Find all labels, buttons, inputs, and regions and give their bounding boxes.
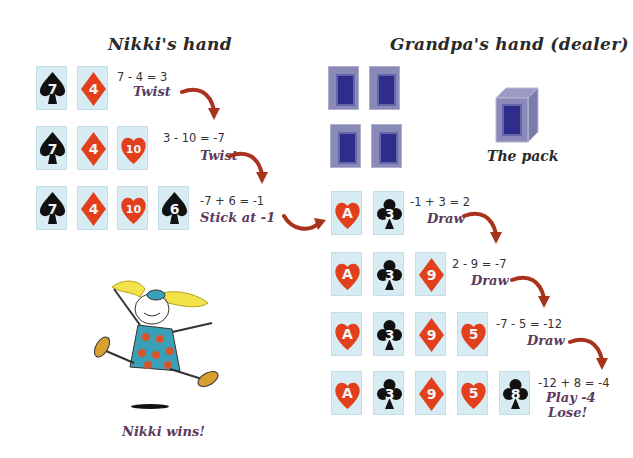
- nikki-action-1: Twist: [133, 84, 171, 99]
- grandpa-hand-title: Grandpa's hand (dealer): [390, 34, 629, 54]
- arrow-icon: [180, 84, 225, 124]
- spade-icon: 7: [37, 187, 68, 231]
- playing-card-4-of-diamonds: 4: [77, 66, 108, 110]
- face-down-card: [371, 124, 402, 168]
- playing-card-9-of-diamonds: 9: [415, 371, 446, 415]
- playing-card-9-of-diamonds: 9: [415, 312, 446, 356]
- playing-card-a-of-hearts: A: [331, 371, 362, 415]
- diamond-icon: 9: [416, 253, 447, 297]
- playing-card-10-of-hearts: 10: [117, 126, 148, 170]
- pack-label: The pack: [487, 148, 558, 164]
- spade-icon: 7: [37, 67, 68, 111]
- nikki-calc-3: -7 + 6 = -1: [200, 194, 264, 208]
- nikki-calc-2: 3 - 10 = -7: [163, 131, 225, 145]
- arrow-icon: [568, 334, 613, 374]
- grandpa-calc-4: -12 + 8 = -4: [538, 376, 609, 390]
- svg-text:9: 9: [427, 386, 437, 402]
- playing-card-5-of-hearts: 5: [457, 371, 488, 415]
- playing-card-a-of-hearts: A: [331, 191, 362, 235]
- svg-text:8: 8: [511, 386, 521, 402]
- diamond-icon: 9: [416, 372, 447, 416]
- svg-text:6: 6: [170, 201, 180, 217]
- svg-text:7: 7: [48, 201, 58, 217]
- face-down-card: [369, 66, 400, 110]
- club-icon: 3: [374, 313, 405, 357]
- arrow-icon: [510, 272, 555, 312]
- diamond-icon: 4: [78, 67, 109, 111]
- playing-card-5-of-hearts: 5: [457, 312, 488, 356]
- playing-card-3-of-clubs: 3: [373, 191, 404, 235]
- playing-card-a-of-hearts: A: [331, 312, 362, 356]
- playing-card-4-of-diamonds: 4: [77, 186, 108, 230]
- svg-text:10: 10: [126, 203, 142, 216]
- grandpa-calc-2: 2 - 9 = -7: [452, 257, 507, 271]
- playing-card-3-of-clubs: 3: [373, 252, 404, 296]
- diamond-icon: 9: [416, 313, 447, 357]
- svg-text:7: 7: [48, 141, 58, 157]
- heart-icon: A: [332, 253, 363, 297]
- card-pack-icon: [488, 86, 540, 148]
- playing-card-8-of-clubs: 8: [499, 371, 530, 415]
- svg-text:A: A: [342, 205, 353, 221]
- playing-card-9-of-diamonds: 9: [415, 252, 446, 296]
- playing-card-7-of-spades: 7: [36, 66, 67, 110]
- heart-icon: A: [332, 372, 363, 416]
- nikki-calc-1: 7 - 4 = 3: [117, 70, 167, 84]
- playing-card-10-of-hearts: 10: [117, 186, 148, 230]
- grandpa-result: Lose!: [548, 405, 587, 420]
- playing-card-3-of-clubs: 3: [373, 371, 404, 415]
- svg-text:3: 3: [385, 386, 395, 402]
- shadow: [131, 404, 169, 409]
- svg-text:4: 4: [88, 81, 98, 97]
- grandpa-calc-3: -7 - 5 = -12: [496, 317, 562, 331]
- svg-text:4: 4: [88, 201, 98, 217]
- heart-icon: 5: [458, 372, 489, 416]
- playing-card-a-of-hearts: A: [331, 252, 362, 296]
- svg-text:A: A: [342, 266, 353, 282]
- svg-text:3: 3: [385, 327, 395, 343]
- diamond-icon: 4: [78, 127, 109, 171]
- svg-text:10: 10: [126, 143, 142, 156]
- svg-text:9: 9: [427, 267, 437, 283]
- grandpa-action-3: Draw: [527, 333, 565, 348]
- nikki-jumping-illustration: [90, 275, 230, 395]
- club-icon: 8: [500, 372, 531, 416]
- diamond-icon: 4: [78, 187, 109, 231]
- face-down-card: [328, 66, 359, 110]
- svg-text:3: 3: [385, 206, 395, 222]
- svg-text:4: 4: [88, 141, 98, 157]
- heart-icon: A: [332, 313, 363, 357]
- playing-card-6-of-spades: 6: [158, 186, 189, 230]
- svg-text:5: 5: [469, 385, 479, 401]
- winner-caption: Nikki wins!: [122, 424, 205, 439]
- svg-text:A: A: [342, 385, 353, 401]
- svg-text:5: 5: [469, 326, 479, 342]
- spade-icon: 6: [159, 187, 190, 231]
- playing-card-4-of-diamonds: 4: [77, 126, 108, 170]
- playing-card-3-of-clubs: 3: [373, 312, 404, 356]
- svg-text:3: 3: [385, 267, 395, 283]
- spade-icon: 7: [37, 127, 68, 171]
- svg-text:9: 9: [427, 327, 437, 343]
- club-icon: 3: [374, 253, 405, 297]
- arrow-icon: [228, 148, 273, 188]
- club-icon: 3: [374, 372, 405, 416]
- grandpa-action-1: Draw: [427, 211, 465, 226]
- arrow-icon: [462, 208, 507, 248]
- nikki-hand-title: Nikki's hand: [108, 34, 232, 54]
- heart-icon: 5: [458, 313, 489, 357]
- grandpa-action-2: Draw: [471, 273, 509, 288]
- arrow-icon: [282, 210, 327, 240]
- face-down-card: [330, 124, 361, 168]
- heart-icon: 10: [118, 127, 149, 171]
- playing-card-7-of-spades: 7: [36, 186, 67, 230]
- heart-icon: A: [332, 192, 363, 236]
- grandpa-calc-1: -1 + 3 = 2: [410, 195, 470, 209]
- svg-text:A: A: [342, 326, 353, 342]
- heart-icon: 10: [118, 187, 149, 231]
- nikki-action-3: Stick at -1: [200, 210, 275, 225]
- playing-card-7-of-spades: 7: [36, 126, 67, 170]
- grandpa-action-4: Play -4: [546, 390, 596, 405]
- svg-text:7: 7: [48, 81, 58, 97]
- club-icon: 3: [374, 192, 405, 236]
